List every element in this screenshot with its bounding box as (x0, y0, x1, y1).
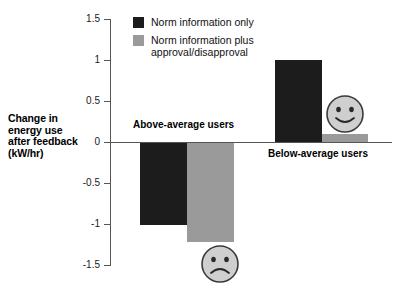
legend-label: Norm information plus approval/disapprov… (151, 34, 313, 59)
y-tick-label: 0 (70, 136, 100, 147)
legend-label: Norm information only (151, 16, 254, 29)
bar-above-average-norm-plus-approval (187, 143, 234, 242)
bar-chart: Change in energy use after feedback (kW/… (0, 0, 402, 287)
bar-below-average-norm-only (275, 60, 322, 142)
y-tick-mark (104, 101, 110, 102)
legend: Norm information only Norm information p… (133, 16, 313, 64)
legend-entry-norm-only: Norm information only (133, 16, 313, 29)
y-tick-label: 1.5 (70, 13, 100, 24)
group-label-above-average: Above-average users (133, 119, 234, 130)
y-axis-title-line-4: (kW/hr) (8, 148, 92, 160)
group-label-below-average: Below-average users (268, 148, 368, 159)
y-tick-label: 0.5 (70, 95, 100, 106)
y-axis-title-line-1: Change in (8, 113, 92, 125)
y-tick-mark (104, 224, 110, 225)
legend-swatch-icon (133, 17, 144, 28)
sad-face-icon (199, 243, 241, 285)
y-tick-mark (104, 142, 110, 143)
legend-swatch-icon (133, 35, 144, 46)
y-tick-label: 1 (70, 54, 100, 65)
bar-above-average-norm-only (140, 143, 187, 225)
y-tick-label: -0.5 (70, 177, 100, 188)
y-tick-mark (104, 60, 110, 61)
happy-face-icon (324, 93, 366, 135)
y-tick-label: -1 (70, 218, 100, 229)
legend-entry-norm-plus-approval: Norm information plus approval/disapprov… (133, 34, 313, 59)
y-tick-mark (104, 265, 110, 266)
bar-below-average-norm-plus-approval (322, 134, 368, 142)
y-tick-label: -1.5 (70, 259, 100, 270)
y-tick-mark (104, 19, 110, 20)
y-tick-mark (104, 183, 110, 184)
